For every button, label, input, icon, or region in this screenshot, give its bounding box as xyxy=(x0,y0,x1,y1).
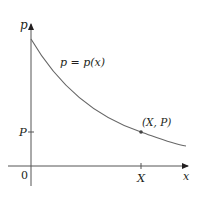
demand-curve-figure: p x 0 p = p(x) (X, P) P X xyxy=(0,0,201,199)
y-axis-label: p xyxy=(20,18,28,32)
curve-label: p = p(x) xyxy=(60,56,105,69)
origin-label: 0 xyxy=(21,169,28,182)
x-tick-label: X xyxy=(136,171,146,185)
point-label: (X, P) xyxy=(142,116,171,128)
demand-curve xyxy=(31,39,186,146)
point-marker xyxy=(139,130,143,134)
y-tick-label: P xyxy=(18,125,27,139)
x-axis-label: x xyxy=(183,170,190,183)
